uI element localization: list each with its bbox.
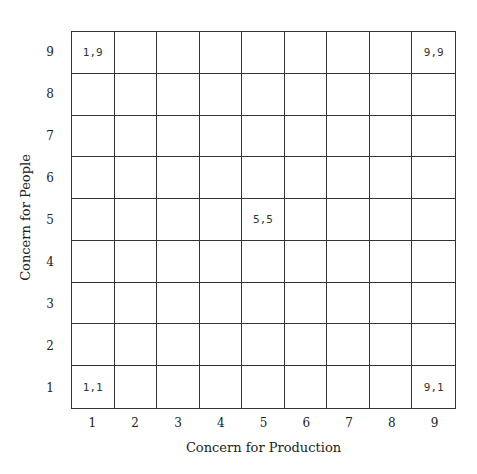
grid-cell: [200, 32, 243, 74]
grid-cell: [200, 283, 243, 325]
y-tick-label: 6: [40, 157, 60, 199]
grid-cell: [285, 74, 328, 116]
grid-cell: [72, 74, 115, 116]
grid-cell: [327, 283, 370, 325]
grid-cell: [370, 74, 413, 116]
grid-cell: [157, 366, 200, 408]
grid-cell: [242, 283, 285, 325]
x-tick-label: 5: [242, 416, 285, 432]
grid-cell: [285, 157, 328, 199]
grid-cell: [115, 366, 158, 408]
grid-cell: 5,5: [242, 199, 285, 241]
grid-cell: [72, 283, 115, 325]
grid-cell: [115, 199, 158, 241]
grid-cell: [327, 366, 370, 408]
grid-cell: [370, 366, 413, 408]
grid-cell: [327, 324, 370, 366]
grid-cell: [72, 324, 115, 366]
grid-cell: [242, 116, 285, 158]
y-tick-label: 2: [40, 325, 60, 367]
grid-cell: [370, 199, 413, 241]
grid-cell: [115, 241, 158, 283]
grid-cell: 9,1: [412, 366, 455, 408]
grid-cell: 9,9: [412, 32, 455, 74]
managerial-grid: 1,99,95,51,19,1: [71, 31, 456, 409]
x-tick-label: 1: [71, 416, 114, 432]
grid-cell: [242, 32, 285, 74]
x-tick-label: 2: [114, 416, 157, 432]
grid-cell: [242, 366, 285, 408]
y-axis-title: Concern for People: [18, 128, 33, 308]
grid-cell: [115, 74, 158, 116]
x-axis-title: Concern for Production: [71, 440, 456, 455]
y-tick-label: 4: [40, 241, 60, 283]
grid-cell: [327, 116, 370, 158]
grid-cell: [115, 283, 158, 325]
grid-cell: [72, 157, 115, 199]
grid-cell: [370, 324, 413, 366]
grid-cell: [72, 116, 115, 158]
x-tick-label: 9: [413, 416, 456, 432]
y-tick-label: 1: [40, 367, 60, 409]
grid-cell: [285, 241, 328, 283]
grid-cell: [412, 116, 455, 158]
grid-cell: [370, 157, 413, 199]
grid-cell: [285, 32, 328, 74]
grid-cell: [115, 324, 158, 366]
grid-cell: [200, 366, 243, 408]
grid-cell: [370, 283, 413, 325]
grid-cell: [370, 241, 413, 283]
grid-cell: [157, 157, 200, 199]
grid-cell: 1,9: [72, 32, 115, 74]
grid-cell: [157, 116, 200, 158]
grid-cell: [285, 366, 328, 408]
grid-cell: [200, 324, 243, 366]
grid-cell: [157, 199, 200, 241]
grid-cell: [200, 241, 243, 283]
grid-cell: [285, 116, 328, 158]
y-tick-label: 5: [40, 199, 60, 241]
grid-cell: [412, 283, 455, 325]
grid-cell: [412, 241, 455, 283]
grid-cell: [115, 157, 158, 199]
grid-cell: [327, 74, 370, 116]
grid-cell: [327, 157, 370, 199]
grid-cell: [327, 32, 370, 74]
grid-cell: [157, 283, 200, 325]
grid-cell: [72, 199, 115, 241]
x-tick-label: 7: [328, 416, 371, 432]
x-axis-ticks: 123456789: [71, 416, 456, 432]
grid-cell: [157, 324, 200, 366]
grid-cell: [412, 199, 455, 241]
y-axis-ticks: 987654321: [40, 31, 60, 409]
grid-cell: [157, 32, 200, 74]
y-tick-label: 7: [40, 115, 60, 157]
grid-cell: [200, 157, 243, 199]
grid-cell: [115, 116, 158, 158]
grid-cell: [242, 74, 285, 116]
grid-cell: [242, 157, 285, 199]
grid-cell: [327, 199, 370, 241]
grid-cell: [115, 32, 158, 74]
x-tick-label: 3: [157, 416, 200, 432]
y-tick-label: 3: [40, 283, 60, 325]
grid-cell: [370, 32, 413, 74]
grid-cell: 1,1: [72, 366, 115, 408]
grid-cell: [200, 116, 243, 158]
y-tick-label: 9: [40, 31, 60, 73]
x-tick-label: 8: [370, 416, 413, 432]
grid-cell: [285, 283, 328, 325]
grid-cell: [285, 324, 328, 366]
grid-cell: [200, 199, 243, 241]
y-tick-label: 8: [40, 73, 60, 115]
grid-cell: [242, 324, 285, 366]
grid-cell: [200, 74, 243, 116]
x-tick-label: 6: [285, 416, 328, 432]
grid-cell: [327, 241, 370, 283]
grid-cell: [370, 116, 413, 158]
grid-cell: [412, 324, 455, 366]
x-tick-label: 4: [199, 416, 242, 432]
grid-cell: [157, 74, 200, 116]
grid-cell: [412, 74, 455, 116]
grid-cell: [157, 241, 200, 283]
